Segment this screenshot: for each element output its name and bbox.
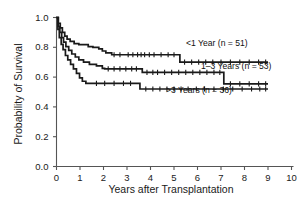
y-axis-tick-label: 0.0 (23, 161, 49, 172)
x-axis-tick-label: 5 (166, 172, 182, 183)
chart-series-group (57, 18, 269, 92)
x-axis-tick-label: 2 (96, 172, 112, 183)
x-axis-tick-label: 0 (49, 172, 65, 183)
x-axis-tick-label: 10 (284, 172, 300, 183)
x-axis-tick-label: 3 (119, 172, 135, 183)
y-axis-tick-label: 0.2 (23, 131, 49, 142)
x-axis-tick-label: 7 (213, 172, 229, 183)
y-axis-tick-label: 0.6 (23, 71, 49, 82)
x-axis-tick-label: 1 (72, 172, 88, 183)
survival-curve-2 (57, 18, 269, 90)
y-axis-tick-label: 0.4 (23, 101, 49, 112)
x-axis-title: Years after Transplantation (58, 183, 284, 195)
survival-chart-figure: Probability of Survival Years after Tran… (0, 0, 307, 205)
y-axis-tick-label: 1.0 (23, 12, 49, 23)
series-label-over-3-years: >3 Years (n = 36) (166, 85, 232, 95)
survival-curve-1 (57, 18, 269, 84)
x-axis-tick-label: 9 (260, 172, 276, 183)
x-axis-tick-label: 8 (237, 172, 253, 183)
series-label-1-3-years: 1–3 Years (n = 53) (201, 61, 271, 71)
x-axis-tick-label: 6 (190, 172, 206, 183)
x-axis-tick-label: 4 (143, 172, 159, 183)
y-axis-tick-label: 0.8 (23, 41, 49, 52)
series-label-under-1-year: <1 Year (n = 51) (186, 38, 248, 48)
